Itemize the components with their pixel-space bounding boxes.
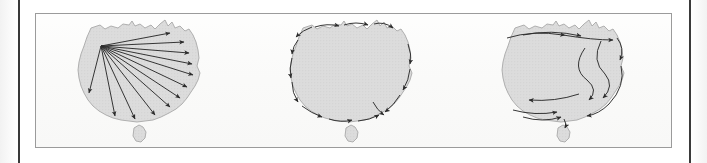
figure-page — [0, 0, 707, 163]
tasmania-outline — [345, 125, 358, 142]
maps-row — [36, 14, 671, 147]
australia-landmass — [290, 20, 412, 142]
page-rule-right — [689, 0, 691, 163]
page-rule-left — [18, 0, 20, 163]
arrow-north-2 — [344, 23, 368, 25]
map-panel-interior-flow[interactable] — [463, 16, 668, 146]
mainland-outline — [290, 20, 412, 122]
map-panel-radial[interactable] — [39, 16, 244, 146]
australia-landmass — [502, 20, 624, 142]
tasmania-outline — [133, 125, 146, 142]
australia-landmass — [78, 20, 200, 142]
map-panel-coastal[interactable] — [251, 16, 456, 146]
scan-vignette-left — [0, 0, 16, 163]
figure-frame — [35, 13, 672, 148]
tasmania-outline — [557, 125, 570, 142]
scan-vignette-right — [691, 0, 707, 163]
